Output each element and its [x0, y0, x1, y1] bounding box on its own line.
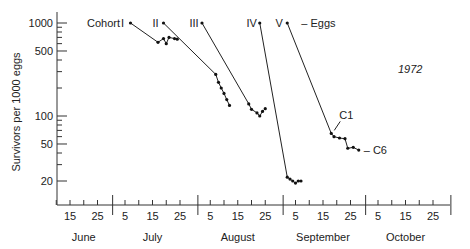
month-label: June [72, 231, 96, 243]
c1-leader [334, 121, 340, 130]
eggs-label: – Eggs [301, 17, 336, 29]
data-point [357, 148, 360, 151]
data-point [297, 179, 300, 182]
cohort-label: V [276, 17, 284, 29]
cohort-label: II [152, 17, 158, 29]
x-tick-label: 25 [344, 210, 356, 222]
chart-svg: 10005001005020Survivors per 1000 eggs152… [0, 0, 470, 249]
data-point [162, 21, 165, 24]
y-tick-label: 100 [35, 110, 53, 122]
data-point [173, 37, 176, 40]
x-tick-label: 5 [292, 210, 298, 222]
data-point [156, 41, 159, 44]
data-point [255, 111, 258, 114]
month-label: October [386, 231, 425, 243]
data-point [258, 114, 261, 117]
data-point [261, 110, 264, 113]
x-tick-label: 25 [259, 210, 271, 222]
data-point [330, 132, 333, 135]
cohort-II-line [164, 23, 230, 105]
c6-label: – C6 [364, 144, 387, 156]
data-point [228, 104, 231, 107]
month-label: July [143, 231, 163, 243]
data-point [258, 21, 261, 24]
x-tick-label: 25 [174, 210, 186, 222]
cohort-label: III [189, 17, 198, 29]
axes: 10005001005020Survivors per 1000 eggs152… [10, 12, 451, 243]
survivorship-chart: 10005001005020Survivors per 1000 eggs152… [0, 0, 470, 249]
year-label: 1972 [398, 63, 422, 75]
data-point [338, 136, 341, 139]
cohort-label: I [121, 17, 124, 29]
c1-label: C1 [339, 109, 353, 121]
data-point [332, 135, 335, 138]
data-point [200, 21, 203, 24]
data-point [294, 181, 297, 184]
x-tick-label: 5 [375, 210, 381, 222]
data-point [346, 147, 349, 150]
y-tick-label: 20 [41, 175, 53, 187]
x-tick-label: 25 [91, 210, 103, 222]
data-point [250, 108, 253, 111]
month-label: August [221, 231, 255, 243]
data-point [286, 176, 289, 179]
data-point [220, 86, 223, 89]
data-point [165, 42, 168, 45]
data-point [288, 177, 291, 180]
x-tick-label: 15 [64, 210, 76, 222]
x-tick-label: 15 [317, 210, 329, 222]
x-tick-label: 15 [399, 210, 411, 222]
cohort-heading: Cohort [87, 17, 120, 29]
data-point [129, 21, 132, 24]
data-point [162, 37, 165, 40]
data-point [343, 137, 346, 140]
data-point [217, 81, 220, 84]
labels-group: IIIIIIIVVCohort– Eggs1972C1– C6 [87, 17, 422, 156]
cohort-IV-line [260, 23, 301, 183]
data-point [167, 36, 170, 39]
y-tick-label: 500 [35, 45, 53, 57]
x-tick-label: 25 [427, 210, 439, 222]
x-tick-label: 5 [207, 210, 213, 222]
cohort-III-line [202, 23, 265, 116]
y-tick-label: 50 [41, 138, 53, 150]
data-point [299, 179, 302, 182]
data-point [264, 107, 267, 110]
cohort-label: IV [247, 17, 258, 29]
data-point [225, 98, 228, 101]
x-tick-label: 5 [122, 210, 128, 222]
series-group [129, 21, 360, 184]
data-point [222, 92, 225, 95]
x-tick-label: 15 [146, 210, 158, 222]
x-tick-label: 15 [232, 210, 244, 222]
cohort-V-line [287, 23, 359, 150]
y-axis-label: Survivors per 1000 eggs [10, 52, 22, 172]
y-tick-label: 1000 [29, 17, 53, 29]
data-point [352, 146, 355, 149]
data-point [247, 102, 250, 105]
month-label: September [296, 231, 350, 243]
data-point [214, 73, 217, 76]
data-point [286, 21, 289, 24]
data-point [291, 179, 294, 182]
